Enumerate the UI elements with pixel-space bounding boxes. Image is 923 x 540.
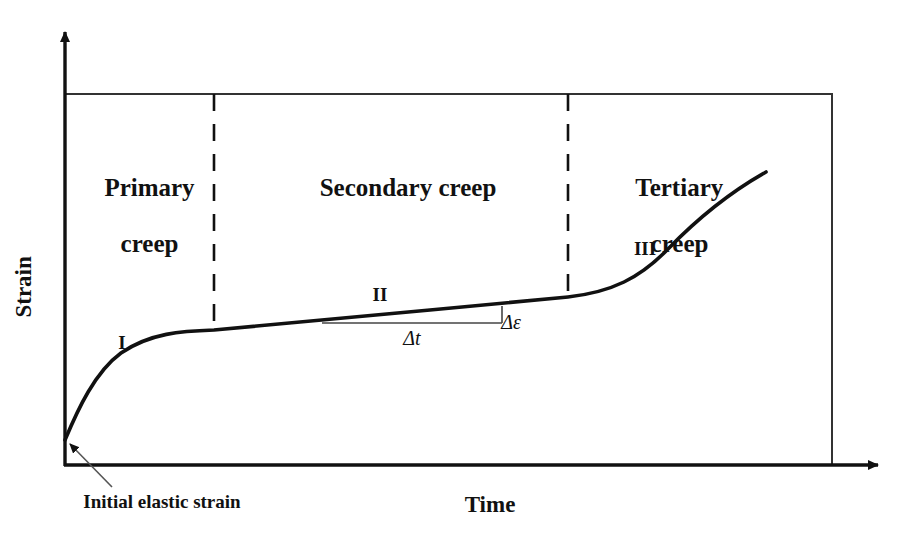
- y-axis-title: Strain: [11, 227, 37, 347]
- region-numeral-primary: I: [104, 332, 140, 353]
- region-numeral-tertiary: III: [624, 238, 666, 259]
- delta-strain-label: Δε: [481, 311, 541, 333]
- stage-title-primary: Primary creep: [62, 146, 212, 286]
- delta-time-label: Δt: [382, 327, 442, 349]
- creep-curve-figure: Primary creep Secondary creep Tertiary c…: [0, 0, 923, 540]
- stage-title-primary-line2: creep: [121, 230, 179, 257]
- stage-title-tertiary: Tertiary creep: [592, 146, 742, 286]
- stage-title-secondary-line1: Secondary creep: [320, 174, 497, 201]
- x-axis-title: Time: [430, 492, 550, 518]
- region-numeral-secondary: II: [362, 284, 398, 305]
- stage-title-secondary: Secondary creep: [283, 146, 508, 230]
- stage-title-tertiary-line1: Tertiary: [635, 174, 723, 201]
- stage-title-primary-line1: Primary: [104, 174, 194, 201]
- initial-elastic-strain-label: Initial elastic strain: [42, 491, 282, 512]
